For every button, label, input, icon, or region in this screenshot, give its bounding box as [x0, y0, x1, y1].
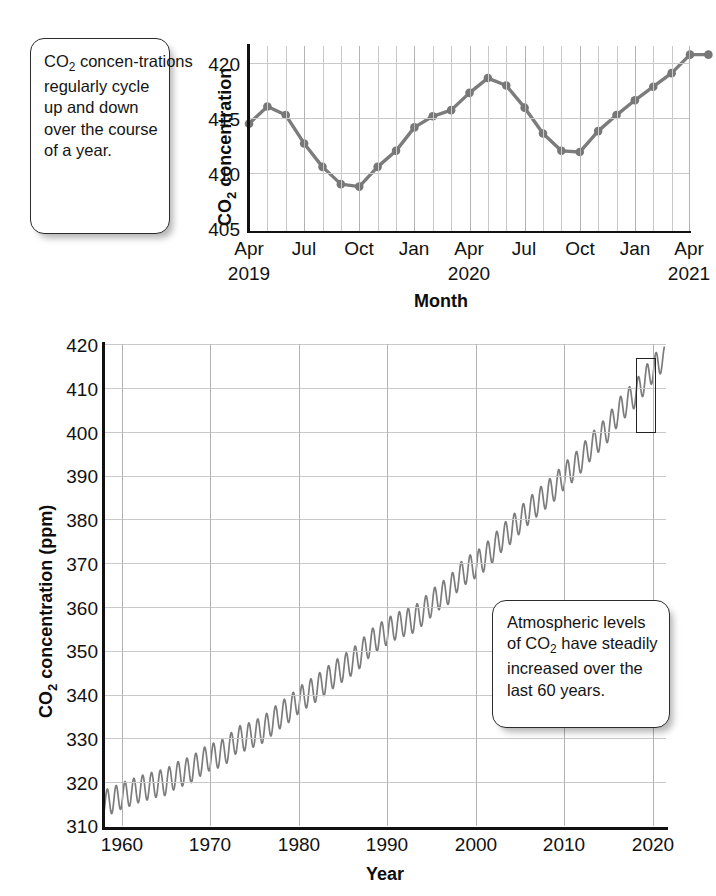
annual-gridline-2000	[476, 344, 477, 826]
monthly-xtick-apr-2020: Apr	[442, 238, 496, 260]
annual-ytick-380: 380	[52, 510, 98, 532]
monthly-gridline-v	[506, 46, 507, 231]
monthly-ytick-420: 420	[196, 54, 240, 76]
annual-plot-area	[104, 344, 666, 826]
monthly-gridline-v-major	[635, 46, 636, 231]
monthly-xtick-oct-2020: Oct	[553, 238, 607, 260]
annual-xtick-1990: 1990	[359, 834, 415, 856]
monthly-gridline-v	[323, 46, 324, 231]
annual-gridline-410	[104, 388, 666, 389]
annual-keeling-curve	[104, 347, 665, 814]
callout-steady-increase: Atmospheric levels of CO2 have steadily …	[492, 600, 670, 728]
monthly-gridline-v-major	[689, 46, 690, 231]
monthly-gridline-v	[617, 46, 618, 231]
monthly-y-axis-title-text: CO2 concentration	[215, 68, 235, 226]
annual-ytick-370: 370	[52, 554, 98, 576]
monthly-xtick-jan-2021: Jan	[608, 238, 662, 260]
monthly-x-axis-line	[247, 231, 691, 233]
annual-gridline-380	[104, 519, 666, 520]
monthly-gridline-v-major	[359, 46, 360, 231]
monthly-gridline-v	[561, 46, 562, 231]
monthly-gridline-v-major	[525, 46, 526, 231]
annual-ytick-320: 320	[52, 773, 98, 795]
monthly-xtick-year-2020: 2020	[442, 263, 496, 285]
annual-gridline-320	[104, 782, 666, 783]
annual-xtick-2020: 2020	[625, 834, 681, 856]
annual-ytick-420: 420	[52, 335, 98, 357]
annual-ytick-400: 400	[52, 423, 98, 445]
annual-gridline-370	[104, 563, 666, 564]
annual-ytick-350: 350	[52, 641, 98, 663]
monthly-xtick-jan-2020: Jan	[387, 238, 441, 260]
monthly-y-axis-line	[247, 44, 250, 233]
annual-xtick-2000: 2000	[448, 834, 504, 856]
annual-y-axis-line	[102, 342, 105, 830]
monthly-gridline-v	[653, 46, 654, 231]
inset-highlight-box	[636, 358, 656, 433]
monthly-y-axis-title: CO2 concentration	[215, 68, 239, 226]
monthly-ytick-410: 410	[196, 164, 240, 186]
monthly-xtick-oct-2019: Oct	[332, 238, 386, 260]
callout-steady-increase-text: Atmospheric levels of CO2 have steadily …	[507, 612, 659, 701]
annual-ytick-410: 410	[52, 379, 98, 401]
annual-gridline-400	[104, 432, 666, 433]
monthly-data-point	[686, 50, 695, 59]
annual-x-axis-title: Year	[366, 864, 404, 885]
monthly-gridline-v-major	[414, 46, 415, 231]
monthly-ytick-415: 415	[196, 109, 240, 131]
page-caption	[0, 886, 698, 896]
annual-gridline-1990	[387, 344, 388, 826]
monthly-xtick-year-2019: 2019	[222, 263, 276, 285]
annual-gridline-390	[104, 476, 666, 477]
monthly-gridline-v-major	[470, 46, 471, 231]
monthly-gridline-v	[598, 46, 599, 231]
monthly-gridline-v-major	[304, 46, 305, 231]
annual-gridline-1970	[210, 344, 211, 826]
monthly-xtick-apr-2019: Apr	[222, 238, 276, 260]
monthly-gridline-v	[433, 46, 434, 231]
monthly-x-axis-title: Month	[414, 291, 468, 312]
monthly-plot-area	[249, 46, 690, 231]
annual-series-svg	[104, 344, 666, 826]
monthly-gridline-v	[341, 46, 342, 231]
annual-ytick-390: 390	[52, 466, 98, 488]
annual-gridline-420	[104, 344, 666, 345]
monthly-gridline-v	[543, 46, 544, 231]
callout-seasonal-cycle: CO2 concen‑trations regularly cycle up a…	[30, 38, 170, 234]
annual-ytick-340: 340	[52, 685, 98, 707]
annual-gridline-1960	[122, 344, 123, 826]
annual-gridline-2010	[564, 344, 565, 826]
monthly-xtick-year-2021: 2021	[662, 263, 716, 285]
annual-xtick-1960: 1960	[94, 834, 150, 856]
monthly-gridline-v-major	[580, 46, 581, 231]
annual-gridline-1980	[299, 344, 300, 826]
monthly-data-point	[704, 50, 713, 59]
monthly-xtick-jul-2020: Jul	[497, 238, 551, 260]
annual-xtick-1980: 1980	[271, 834, 327, 856]
annual-xtick-2010: 2010	[536, 834, 592, 856]
annual-ytick-360: 360	[52, 598, 98, 620]
monthly-gridline-v	[451, 46, 452, 231]
monthly-gridline-v	[378, 46, 379, 231]
annual-ytick-310: 310	[52, 816, 98, 838]
annual-x-axis-line	[102, 827, 668, 830]
annual-ytick-330: 330	[52, 729, 98, 751]
monthly-xtick-apr-2021: Apr	[662, 238, 716, 260]
monthly-gridline-v	[267, 46, 268, 231]
monthly-gridline-v	[672, 46, 673, 231]
monthly-gridline-v	[396, 46, 397, 231]
annual-gridline-330	[104, 738, 666, 739]
monthly-xtick-jul-2019: Jul	[277, 238, 331, 260]
callout-seasonal-cycle-text: CO2 concen‑trations regularly cycle up a…	[44, 51, 159, 161]
monthly-gridline-v	[488, 46, 489, 231]
annual-xtick-1970: 1970	[182, 834, 238, 856]
monthly-gridline-v	[286, 46, 287, 231]
